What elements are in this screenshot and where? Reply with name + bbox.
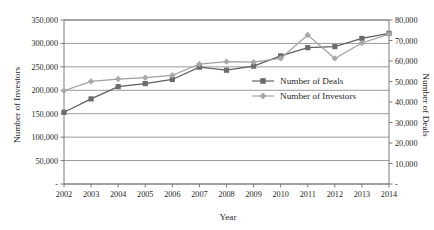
data-point-deals (332, 44, 337, 49)
y-tick-label: 350,000 (31, 16, 58, 25)
y2-tick-label: 30,000 (395, 119, 418, 128)
x-tick-label: 2009 (245, 190, 261, 199)
x-tick-label: 2004 (110, 190, 126, 199)
x-tick-label: 2011 (300, 190, 316, 199)
chart-container: -50,000100,000150,000200,000250,000300,0… (0, 0, 434, 230)
data-point-deals (88, 96, 93, 101)
data-point-deals (116, 84, 121, 89)
x-tick-label: 2002 (56, 190, 72, 199)
y-tick-label: 300,000 (31, 39, 58, 48)
legend-item-label: Number of Deals (280, 76, 344, 86)
y-axis-title: Number of Investors (12, 67, 22, 143)
data-point-deals (305, 45, 310, 50)
y2-tick-label: 50,000 (395, 78, 418, 87)
dual-axis-line-chart: -50,000100,000150,000200,000250,000300,0… (0, 0, 434, 230)
y2-tick-label: 40,000 (395, 98, 418, 107)
y-tick-label: 200,000 (31, 86, 58, 95)
y-tick-label: - (55, 180, 58, 189)
x-tick-label: 2003 (83, 190, 99, 199)
y2-tick-label: 20,000 (395, 139, 418, 148)
x-tick-label: 2013 (354, 190, 370, 199)
x-tick-label: 2008 (218, 190, 234, 199)
y-tick-label: 100,000 (31, 133, 58, 142)
x-tick-label: 2010 (272, 190, 288, 199)
data-point-deals (224, 68, 229, 73)
x-tick-label: 2006 (164, 190, 180, 199)
x-axis-title: Year (220, 212, 237, 222)
legend-item-label: Number of Investors (280, 91, 356, 101)
y-tick-label: 250,000 (31, 63, 58, 72)
data-point-deals (143, 81, 148, 86)
y2-tick-label: - (395, 180, 398, 189)
x-tick-label: 2005 (137, 190, 153, 199)
x-tick-label: 2014 (381, 190, 397, 199)
y2-tick-label: 70,000 (395, 37, 418, 46)
y-tick-label: 50,000 (35, 157, 58, 166)
legend-marker-icon (260, 78, 266, 84)
y2-tick-label: 60,000 (395, 57, 418, 66)
x-tick-label: 2007 (191, 190, 207, 199)
y2-axis-title: Number of Deals (421, 73, 431, 137)
x-tick-label: 2012 (327, 190, 343, 199)
data-point-deals (61, 110, 66, 115)
y2-tick-label: 80,000 (395, 16, 418, 25)
y-tick-label: 150,000 (31, 110, 58, 119)
y2-tick-label: 10,000 (395, 160, 418, 169)
